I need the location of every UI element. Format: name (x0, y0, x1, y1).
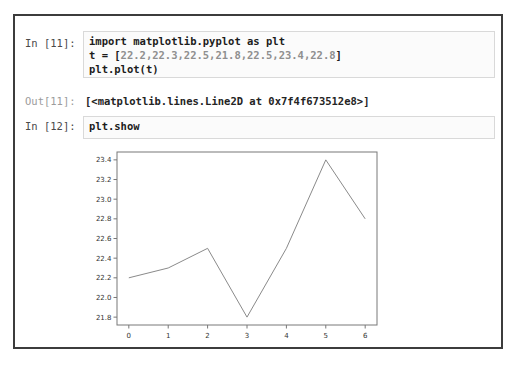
x-tick-label: 0 (127, 332, 131, 340)
y-tick-label: 22.0 (96, 294, 112, 302)
x-tick-label: 4 (284, 332, 289, 340)
y-tick-label: 22.6 (96, 235, 112, 243)
code-cell-input-12[interactable]: plt.show (83, 116, 495, 139)
code-text: plt.show (89, 120, 140, 132)
code-cell-input-11[interactable]: import matplotlib.pyplot as plt t = [22.… (83, 31, 495, 78)
code-text: import matplotlib.pyplot as plt (89, 35, 285, 47)
y-tick-label: 22.8 (96, 215, 112, 223)
y-tick-label: 22.2 (96, 274, 112, 282)
data-line-series (129, 160, 365, 317)
input-prompt-12: In [12]: (25, 120, 76, 132)
code-line: t = [22.2,22.3,22.5,21.8,22.5,23.4,22.8] (89, 48, 489, 62)
x-tick-label: 3 (245, 332, 249, 340)
code-text: plt.plot(t) (89, 63, 159, 75)
y-tick-label: 23.2 (96, 176, 112, 184)
y-tick-label: 23.0 (96, 196, 112, 204)
x-tick-label: 5 (324, 332, 328, 340)
notebook-frame: In [11]: import matplotlib.pyplot as plt… (13, 14, 503, 349)
y-tick-label: 22.4 (96, 255, 112, 263)
code-line: plt.show (89, 119, 489, 133)
output-repr-text: [<matplotlib.lines.Line2D at 0x7f4f67351… (85, 95, 369, 107)
x-tick-label: 1 (166, 332, 170, 340)
input-prompt-11: In [11]: (25, 37, 76, 49)
code-line: import matplotlib.pyplot as plt (89, 34, 489, 48)
y-tick-label: 23.4 (96, 156, 112, 164)
code-text: t = [ (89, 49, 121, 61)
output-prompt-11: Out[11]: (25, 95, 76, 107)
x-tick-label: 2 (205, 332, 209, 340)
code-line: plt.plot(t) (89, 62, 489, 76)
code-text: ] (336, 49, 342, 61)
y-tick-label: 21.8 (96, 314, 112, 322)
x-tick-label: 6 (363, 332, 368, 340)
code-number-literal: 22.2,22.3,22.5,21.8,22.5,23.4,22.8 (121, 49, 336, 61)
matplotlib-figure: 012345621.822.022.222.422.622.823.023.22… (90, 145, 400, 345)
